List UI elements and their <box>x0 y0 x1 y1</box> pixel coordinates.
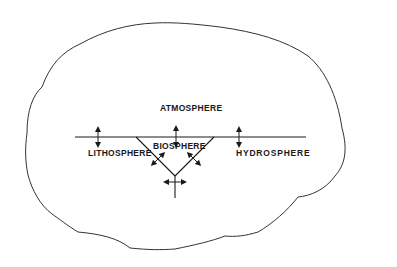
label-hydrosphere: HYDROSPHERE <box>236 149 310 158</box>
label-atmosphere: ATMOSPHERE <box>160 104 222 113</box>
double-arrow-icon <box>189 154 199 164</box>
earth-boundary-outline <box>26 23 345 250</box>
earth-spheres-diagram: ATMOSPHERE LITHOSPHERE BIOSPHERE HYDROSP… <box>0 0 397 267</box>
diagram-graphics <box>0 0 397 267</box>
label-biosphere: BIOSPHERE <box>153 142 206 151</box>
label-lithosphere: LITHOSPHERE <box>88 149 152 158</box>
